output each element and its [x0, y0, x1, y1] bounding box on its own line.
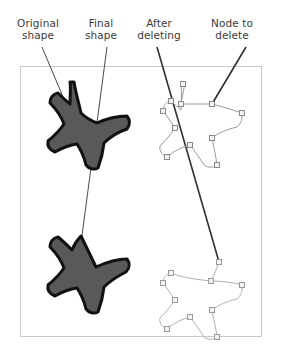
label-final-shape: Final shape: [74, 17, 128, 41]
label-after-deleting: After deleting: [126, 17, 192, 41]
node-deletion-figure: [0, 0, 284, 351]
label-original-shape: Original shape: [2, 17, 74, 41]
label-node-to-delete: Node to delete: [192, 17, 272, 41]
